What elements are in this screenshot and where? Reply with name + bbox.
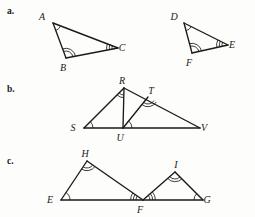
triangles-ehf-fig-angle-g-arc-1 bbox=[194, 194, 197, 200]
triangles-ehf-fig-side-fi bbox=[143, 172, 175, 200]
triangles-ehf-fig-angle-ifg-arc-2 bbox=[150, 194, 152, 200]
triangle-abc-angle-a-arc-1 bbox=[56, 26, 61, 31]
nested-triangles-srv-angle-r-arc-1 bbox=[119, 93, 124, 95]
vertex-label-c: C bbox=[119, 42, 126, 53]
vertex-label-f: F bbox=[185, 57, 193, 68]
triangles-ehf-fig-angle-e-arc-1 bbox=[66, 193, 70, 200]
part-a-group bbox=[53, 23, 228, 58]
vertex-label-s: S bbox=[71, 122, 76, 133]
triangles-ehf-fig-side-eh bbox=[61, 161, 87, 200]
diagram-canvas: ABCDFESRUTVEHFIG bbox=[0, 0, 255, 217]
triangles-ehf-fig-angle-hfe-arc-3 bbox=[131, 193, 133, 200]
triangles-ehf-fig-angle-hfe-arc-2 bbox=[133, 194, 135, 200]
vertex-label-f: F bbox=[136, 204, 144, 215]
vertex-label-e: E bbox=[46, 194, 53, 205]
vertex-label-e: E bbox=[228, 39, 235, 50]
triangle-def-angle-e-arc-2 bbox=[219, 41, 220, 47]
part-b-group bbox=[84, 88, 200, 128]
triangle-abc-angle-c-arc-3 bbox=[107, 44, 108, 50]
vertex-label-b: B bbox=[60, 62, 66, 73]
triangle-abc-side-3 bbox=[53, 23, 118, 48]
vertex-label-u: U bbox=[116, 132, 124, 143]
vertex-label-t: T bbox=[148, 85, 155, 96]
vertex-label-g: G bbox=[203, 194, 210, 205]
triangles-ehf-fig-side-hf bbox=[87, 161, 143, 200]
triangle-abc-side-2 bbox=[66, 48, 118, 58]
vertex-label-d: D bbox=[169, 11, 178, 22]
vertex-label-a: A bbox=[38, 11, 46, 22]
nested-triangles-srv-side-sr bbox=[84, 88, 124, 128]
part-c-group bbox=[61, 161, 203, 200]
nested-triangles-srv-side-ru bbox=[123, 88, 124, 128]
vertex-label-v: V bbox=[201, 122, 209, 133]
triangle-def-side-3 bbox=[184, 23, 228, 45]
vertex-label-h: H bbox=[80, 148, 89, 159]
triangles-ehf-fig-side-ig bbox=[175, 172, 203, 200]
triangles-ehf-fig-angle-i-arc-1 bbox=[170, 177, 180, 179]
geometry-figure: a. b. c. ABCDFESRUTVEHFIG bbox=[0, 0, 255, 217]
nested-triangles-srv-side-rv bbox=[124, 88, 200, 128]
triangle-def-angle-e-arc-3 bbox=[217, 40, 218, 48]
vertex-label-i: I bbox=[173, 159, 178, 170]
nested-triangles-srv-angle-u-arc-1 bbox=[129, 121, 132, 128]
vertex-label-group: ABCDFESRUTVEHFIG bbox=[38, 11, 235, 215]
vertex-label-r: R bbox=[118, 75, 125, 86]
nested-triangles-srv-side-ut bbox=[123, 97, 148, 128]
nested-triangles-srv-angle-s-arc-1 bbox=[90, 122, 93, 128]
triangle-def-angle-d-arc-1 bbox=[186, 27, 191, 31]
